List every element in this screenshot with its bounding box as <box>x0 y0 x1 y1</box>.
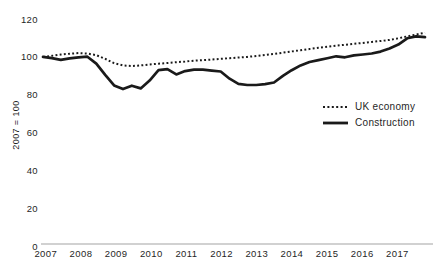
legend-label-construction: Construction <box>355 117 415 128</box>
x-tick-label-2016: 2016 <box>351 248 374 259</box>
x-tick-label-2017: 2017 <box>386 248 409 259</box>
legend: UK economy Construction <box>322 101 415 128</box>
legend-item-construction: Construction <box>322 117 415 128</box>
y-tick-label-20: 20 <box>5 203 38 214</box>
y-tick-label-120: 120 <box>5 14 38 25</box>
x-tick-label-2011: 2011 <box>175 248 197 259</box>
x-tick-label-2013: 2013 <box>245 248 268 259</box>
dotted-line-sample-icon <box>322 103 349 111</box>
legend-label-uk-economy: UK economy <box>355 101 415 112</box>
x-tick-label-2015: 2015 <box>316 248 339 259</box>
legend-item-uk-economy: UK economy <box>322 101 415 112</box>
x-tick-label-2009: 2009 <box>105 248 128 259</box>
line-plot-canvas <box>0 0 433 275</box>
x-tick-label-2007: 2007 <box>34 248 57 259</box>
y-tick-label-0: 0 <box>5 241 38 252</box>
y-tick-label-100: 100 <box>5 51 38 62</box>
series-line-uk-economy <box>43 33 425 66</box>
x-tick-label-2010: 2010 <box>140 248 163 259</box>
solid-line-sample-icon <box>322 119 349 127</box>
chart-container: 2007 = 100 020406080100120 2007200820092… <box>0 0 433 275</box>
y-tick-label-40: 40 <box>5 165 38 176</box>
x-tick-label-2014: 2014 <box>281 248 304 259</box>
y-tick-label-60: 60 <box>5 127 38 138</box>
y-tick-label-80: 80 <box>5 89 38 100</box>
x-tick-label-2012: 2012 <box>210 248 233 259</box>
x-tick-label-2008: 2008 <box>70 248 93 259</box>
series-line-construction <box>43 36 425 89</box>
